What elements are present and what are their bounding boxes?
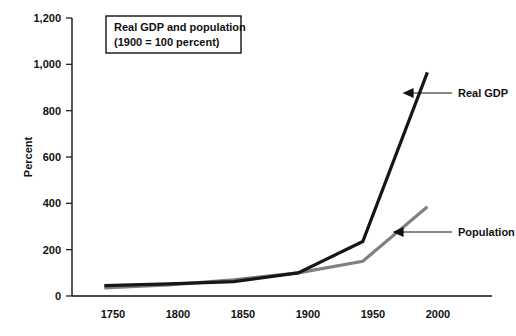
- y-axis: [66, 18, 72, 296]
- chart-figure: 0 200 400 600 800 1,000 1,200 1750 1800 …: [0, 0, 516, 336]
- annotation-population: Population: [394, 226, 515, 238]
- y-tick-label: 1,000: [33, 58, 61, 70]
- y-tick-label: 0: [55, 290, 61, 302]
- chart-canvas: 0 200 400 600 800 1,000 1,200 1750 1800 …: [0, 0, 516, 336]
- y-tick-label: 200: [43, 244, 61, 256]
- y-tick-label: 800: [43, 105, 61, 117]
- y-tick-label: 600: [43, 151, 61, 163]
- chart-title-box: Real GDP and population (1900 = 100 perc…: [106, 16, 246, 53]
- x-tick-labels: 1750 1800 1850 1900 1950 2000: [101, 308, 450, 320]
- annotation-label-real-gdp: Real GDP: [458, 87, 508, 99]
- x-tick-label: 1800: [166, 308, 190, 320]
- x-tick-label: 1850: [231, 308, 255, 320]
- chart-subtitle: (1900 = 100 percent): [114, 36, 220, 48]
- y-axis-title: Percent: [22, 136, 34, 177]
- chart-title: Real GDP and population: [114, 21, 246, 33]
- x-tick-label: 2000: [426, 308, 450, 320]
- y-tick-label: 400: [43, 197, 61, 209]
- series-line-real-gdp: [104, 72, 427, 285]
- y-tick-labels: 0 200 400 600 800 1,000 1,200: [33, 12, 61, 302]
- x-tick-label: 1950: [361, 308, 385, 320]
- x-tick-label: 1750: [101, 308, 125, 320]
- y-axis-ticks: [66, 18, 72, 296]
- y-tick-label: 1,200: [33, 12, 61, 24]
- x-tick-label: 1900: [296, 308, 320, 320]
- annotation-label-population: Population: [458, 226, 515, 238]
